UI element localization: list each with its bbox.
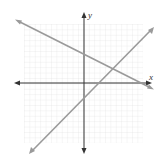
arrowhead-icon (15, 20, 22, 25)
arrowhead-icon (147, 85, 154, 90)
x-axis-left-arrow-icon (14, 81, 20, 86)
y-axis-up-arrow-icon (82, 12, 87, 18)
y-axis-down-arrow-icon (82, 148, 87, 154)
x-axis-label: x (148, 72, 153, 82)
y-axis-label: y (87, 10, 92, 20)
coordinate-plane: x y (0, 0, 163, 162)
